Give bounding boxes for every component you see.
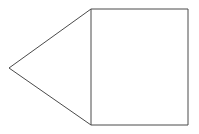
diagram-background: [0, 0, 199, 134]
figure-canvas: [0, 0, 199, 134]
shape-diagram: [0, 0, 199, 134]
